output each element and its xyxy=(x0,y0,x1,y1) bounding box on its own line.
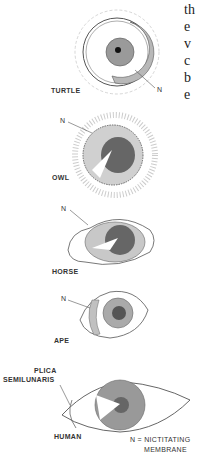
owl-n-pointer: N xyxy=(60,117,65,124)
horse-label: HORSE xyxy=(52,268,78,275)
horse-n-pointer: N xyxy=(61,205,66,212)
ape-n-pointer: N xyxy=(61,295,66,302)
prose-fragment: c xyxy=(184,53,190,69)
legend-line2: MEMBRANE xyxy=(144,446,187,453)
prose-fragment: e xyxy=(184,19,190,35)
prose-fragment: e xyxy=(184,87,190,103)
plica-label-line1: PLICA xyxy=(34,367,57,374)
eye-illustrations xyxy=(0,0,197,455)
plica-label-line2: SEMILUNARIS xyxy=(3,376,55,383)
ape-eye-drawing xyxy=(68,291,148,338)
turtle-n-pointer: N xyxy=(157,86,162,93)
turtle-eye-drawing xyxy=(75,10,159,94)
horse-eye-drawing xyxy=(68,210,154,264)
prose-fragment: th xyxy=(184,2,195,18)
human-eye-drawing xyxy=(60,380,190,432)
prose-fragment: v xyxy=(184,36,191,52)
human-label: HUMAN xyxy=(54,433,82,440)
owl-label: OWL xyxy=(52,174,69,181)
legend-line1: N = NICTITATING xyxy=(130,436,190,443)
prose-fragment: b xyxy=(184,70,191,86)
owl-eye-drawing xyxy=(68,115,155,195)
ape-label: APE xyxy=(54,337,69,344)
turtle-label: TURTLE xyxy=(51,87,80,94)
